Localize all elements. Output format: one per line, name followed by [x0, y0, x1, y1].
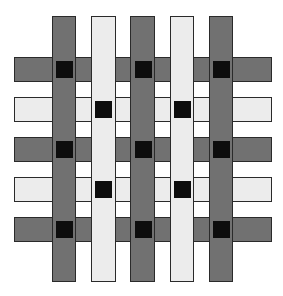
intersection-knot [95, 101, 112, 118]
intersection-knot [174, 181, 191, 198]
intersection-knot [95, 181, 112, 198]
weave-diagram [0, 0, 283, 296]
weave-column-4-light [170, 16, 194, 282]
weave-column-2-light [91, 16, 116, 282]
intersection-knot [174, 101, 191, 118]
intersection-knot [135, 61, 152, 78]
intersection-knot [56, 221, 73, 238]
intersection-knot [135, 221, 152, 238]
intersection-knot [56, 61, 73, 78]
intersection-knot [213, 141, 230, 158]
intersection-knot [56, 141, 73, 158]
intersection-knot [213, 61, 230, 78]
intersection-knot [135, 141, 152, 158]
intersection-knot [213, 221, 230, 238]
